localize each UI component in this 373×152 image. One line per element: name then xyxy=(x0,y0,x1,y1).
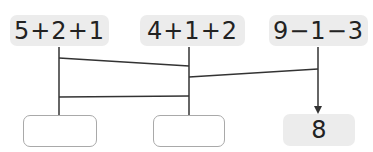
expression-box-2: 4+1+2 xyxy=(140,15,245,46)
expression-text: 5+2+1 xyxy=(14,17,105,45)
expression-box-3: 9−1−3 xyxy=(269,15,368,46)
answer-box-3: 8 xyxy=(283,114,355,146)
expression-box-1: 5+2+1 xyxy=(10,15,109,46)
answer-box-1[interactable] xyxy=(23,115,97,147)
arrow-down-icon xyxy=(314,106,322,114)
rung-1 xyxy=(59,58,189,66)
expression-text: 4+1+2 xyxy=(147,17,238,45)
rung-2 xyxy=(189,69,318,77)
answer-box-2[interactable] xyxy=(153,115,225,147)
rung-3 xyxy=(59,96,189,97)
expression-text: 9−1−3 xyxy=(273,17,364,45)
answer-text: 8 xyxy=(311,116,326,144)
